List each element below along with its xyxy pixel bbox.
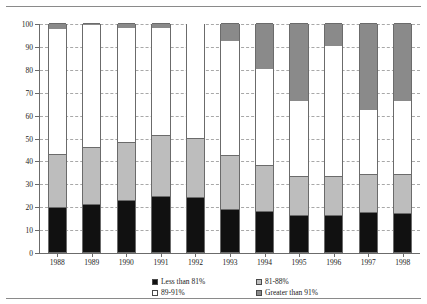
legend-swatch-icon: [256, 290, 262, 296]
bar-segment-1995-89-91: [290, 101, 307, 177]
legend-item-greater-than-91[interactable]: Greater than 91%: [256, 288, 382, 297]
legend-item-81-88[interactable]: 81-88%: [256, 277, 382, 286]
legend-swatch-icon: [152, 279, 158, 285]
bar-segment-1996-greater-than-91: [325, 23, 342, 46]
bar-1993[interactable]: [220, 24, 239, 253]
bar-1990[interactable]: [117, 24, 136, 253]
bar-1991[interactable]: [151, 24, 170, 253]
x-axis-tick: [368, 253, 369, 257]
x-axis-tick: [403, 253, 404, 257]
x-axis-tick: [230, 253, 231, 257]
bar-segment-1992-less-than-81: [187, 197, 204, 252]
bar-group: [40, 24, 420, 253]
legend-swatch-icon: [256, 279, 262, 285]
legend-label: Less than 81%: [161, 277, 205, 286]
x-axis-tick: [126, 253, 127, 257]
bar-segment-1998-81-88: [394, 174, 411, 213]
bar-segment-1988-81-88: [49, 154, 66, 208]
x-axis-tick: [57, 253, 58, 257]
x-axis-label-1989: 1989: [84, 258, 99, 267]
bar-segment-1992-89-91: [187, 23, 204, 138]
bar-segment-1997-greater-than-91: [360, 23, 377, 110]
y-axis-tick-label: 40: [26, 157, 34, 166]
bar-segment-1995-greater-than-91: [290, 23, 307, 101]
y-axis-tick-label: 60: [26, 111, 34, 120]
x-axis-tick: [334, 253, 335, 257]
bar-segment-1994-81-88: [256, 165, 273, 211]
plot-wrapper: Percent of Balance 010203040506070809010…: [0, 0, 427, 304]
bar-segment-1996-less-than-81: [325, 215, 342, 252]
bar-1988[interactable]: [48, 24, 67, 253]
legend-item-89-91[interactable]: 89-91%: [152, 288, 256, 297]
x-axis-tick: [265, 253, 266, 257]
y-axis-tick-label: 90: [26, 42, 34, 51]
y-axis-tick-label: 30: [26, 180, 34, 189]
plot-area: Percent of Balance 010203040506070809010…: [39, 24, 420, 254]
bar-1989[interactable]: [82, 24, 101, 253]
y-axis-tick-label: 80: [26, 65, 34, 74]
bar-segment-1990-less-than-81: [118, 200, 135, 252]
x-axis-label-1993: 1993: [223, 258, 238, 267]
y-axis-tick-label: 70: [26, 88, 34, 97]
bar-segment-1994-less-than-81: [256, 211, 273, 252]
bar-1992[interactable]: [186, 24, 205, 253]
bar-segment-1994-greater-than-91: [256, 23, 273, 69]
legend-swatch-icon: [152, 290, 158, 296]
bar-segment-1990-89-91: [118, 28, 135, 143]
bar-segment-1988-greater-than-91: [49, 23, 66, 29]
bar-1997[interactable]: [359, 24, 378, 253]
bar-segment-1989-greater-than-91: [83, 23, 100, 25]
x-axis-label-1994: 1994: [257, 258, 272, 267]
x-axis-label-1998: 1998: [395, 258, 410, 267]
bar-segment-1994-89-91: [256, 69, 273, 165]
bar-1995[interactable]: [289, 24, 308, 253]
y-axis-tick-label: 20: [26, 203, 34, 212]
bar-segment-1991-less-than-81: [152, 196, 169, 252]
bar-segment-1988-89-91: [49, 29, 66, 154]
bar-segment-1989-89-91: [83, 25, 100, 146]
x-axis-tick: [92, 253, 93, 257]
bar-1998[interactable]: [393, 24, 412, 253]
legend: Less than 81%81-88%89-91%Greater than 91…: [152, 276, 382, 298]
bar-segment-1997-89-91: [360, 110, 377, 174]
legend-label: 81-88%: [265, 277, 289, 286]
x-axis-tick: [299, 253, 300, 257]
bar-segment-1993-less-than-81: [221, 209, 238, 253]
bar-1994[interactable]: [255, 24, 274, 253]
x-axis-label-1996: 1996: [326, 258, 341, 267]
x-axis-tick: [161, 253, 162, 257]
legend-label: 89-91%: [161, 288, 185, 297]
bar-segment-1998-89-91: [394, 101, 411, 174]
bar-segment-1990-81-88: [118, 142, 135, 200]
legend-item-less-than-81[interactable]: Less than 81%: [152, 277, 256, 286]
bar-segment-1991-greater-than-91: [152, 23, 169, 28]
bar-segment-1993-greater-than-91: [221, 23, 238, 41]
bar-segment-1992-81-88: [187, 138, 204, 198]
x-axis-label-1990: 1990: [119, 258, 134, 267]
bar-segment-1998-less-than-81: [394, 213, 411, 252]
bar-segment-1993-81-88: [221, 155, 238, 209]
bar-segment-1998-greater-than-91: [394, 23, 411, 101]
y-axis-tick-label: 100: [22, 20, 33, 29]
bar-segment-1991-89-91: [152, 28, 169, 136]
bar-segment-1993-89-91: [221, 41, 238, 154]
y-axis-tick-label: 10: [26, 226, 34, 235]
x-axis-label-1997: 1997: [361, 258, 376, 267]
bar-segment-1996-81-88: [325, 176, 342, 215]
x-axis-label-1992: 1992: [188, 258, 203, 267]
y-axis-tick: [35, 253, 40, 254]
bar-segment-1989-81-88: [83, 147, 100, 204]
bar-1996[interactable]: [324, 24, 343, 253]
bar-segment-1988-less-than-81: [49, 207, 66, 252]
y-axis-tick-label: 0: [29, 249, 33, 258]
figure-chart-percent-of-balance: Percent of Balance 010203040506070809010…: [0, 0, 427, 304]
x-axis-label-1991: 1991: [153, 258, 168, 267]
bar-segment-1996-89-91: [325, 46, 342, 177]
bar-segment-1995-less-than-81: [290, 215, 307, 252]
bar-segment-1995-81-88: [290, 176, 307, 215]
legend-label: Greater than 91%: [265, 288, 318, 297]
y-axis-tick-label: 50: [26, 134, 34, 143]
bar-segment-1991-81-88: [152, 135, 169, 196]
x-axis-tick: [195, 253, 196, 257]
bar-segment-1989-less-than-81: [83, 204, 100, 252]
